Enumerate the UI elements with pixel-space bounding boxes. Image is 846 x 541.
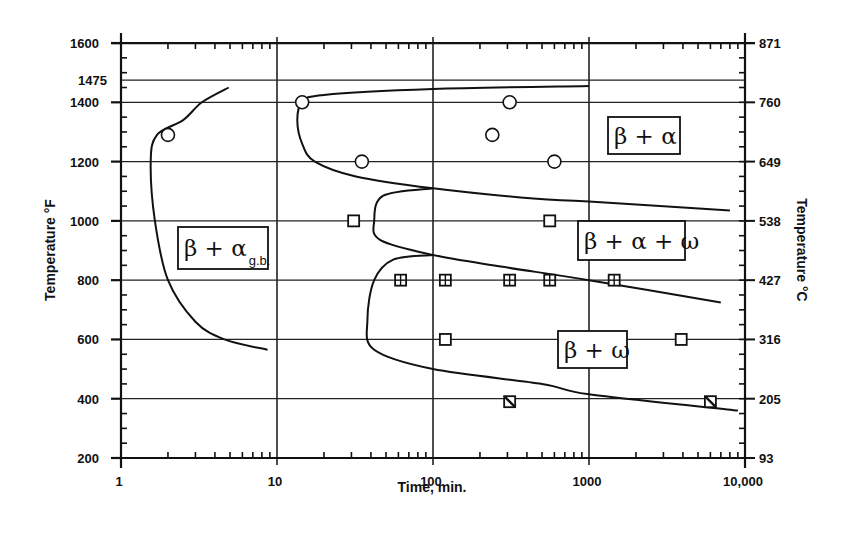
y-right-tick-label: 316 [759,332,781,347]
y-axis-title-left: Temperature °F [42,199,58,301]
marker-square-cross-icon [544,275,555,286]
marker-square-icon [348,215,359,226]
y-right-tick-label: 427 [759,273,781,288]
y-tick-label: 1400 [70,95,99,110]
marker-square-cross-icon [440,275,451,286]
ttt-diagram: β + αg.b.β + αβ + α + ωβ + ω 20040060080… [0,0,846,541]
marker-square-icon [544,215,555,226]
axis-labels: 2004006008001000120014001475160093205316… [70,36,781,489]
x-axis-title: Time, min. [398,479,467,495]
x-tick-label: 1 [115,474,122,489]
region-label-beta_alpha_omega: β + α + ω [578,221,699,260]
y-tick-label: 200 [77,451,99,466]
y-right-tick-label: 93 [759,451,773,466]
y-tick-label: 1600 [70,36,99,51]
region-label-beta_alpha_gb: β + αg.b. [178,227,270,269]
marker-circle-icon [355,155,368,168]
y-right-tick-label: 871 [759,36,781,51]
marker-circle-icon [161,128,174,141]
marker-square-slash-icon [504,396,515,407]
y-axis-title-right: Temperature °C [794,198,810,301]
y-tick-label: 1475 [78,73,107,88]
marker-square-icon [440,334,451,345]
y-right-tick-label: 538 [759,214,781,229]
phase-region-labels: β + αg.b.β + αβ + α + ωβ + ω [178,117,699,368]
marker-circle-icon [296,96,309,109]
x-tick-label: 10,000 [723,474,763,489]
region-label-beta_alpha: β + α [608,117,680,154]
marker-square-slash-icon [705,396,716,407]
marker-square-icon [676,334,687,345]
region-text: β + α + ω [584,228,699,254]
region-label-beta_omega: β + ω [558,331,630,368]
y-tick-label: 800 [77,273,99,288]
y-tick-label: 1200 [70,155,99,170]
y-tick-label: 600 [77,332,99,347]
marker-circle-icon [548,155,561,168]
y-right-tick-label: 649 [759,155,781,170]
y-tick-label: 1000 [70,214,99,229]
x-tick-label: 10 [268,474,282,489]
region-text: β + ω [564,337,630,363]
marker-square-cross-icon [504,275,515,286]
marker-circle-icon [486,128,499,141]
marker-square-cross-icon [609,275,620,286]
x-tick-label: 1000 [573,474,602,489]
region-text: β + α [614,123,677,149]
y-tick-label: 400 [77,392,99,407]
y-right-tick-label: 760 [759,95,781,110]
marker-square-cross-icon [395,275,406,286]
curve-alpha_gb_boundary [151,88,268,350]
marker-circle-icon [503,96,516,109]
y-right-tick-label: 205 [759,392,781,407]
